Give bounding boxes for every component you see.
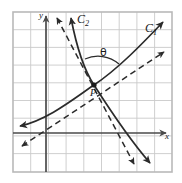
curve-label-c2-sub: 2 xyxy=(85,19,89,28)
curve-label-c1-text: C xyxy=(145,21,153,35)
curve-label-c1: C1 xyxy=(145,22,157,38)
curve-label-c2: C2 xyxy=(77,13,89,29)
x-axis-label: x xyxy=(165,132,169,141)
geometry-figure: C2 C1 θ P y x xyxy=(0,0,182,183)
y-axis-label: y xyxy=(39,11,43,20)
point-label-p: P xyxy=(90,88,96,98)
curve-label-c2-text: C xyxy=(77,12,85,26)
angle-label-theta: θ xyxy=(100,47,107,58)
curve-label-c1-sub: 1 xyxy=(153,28,157,37)
